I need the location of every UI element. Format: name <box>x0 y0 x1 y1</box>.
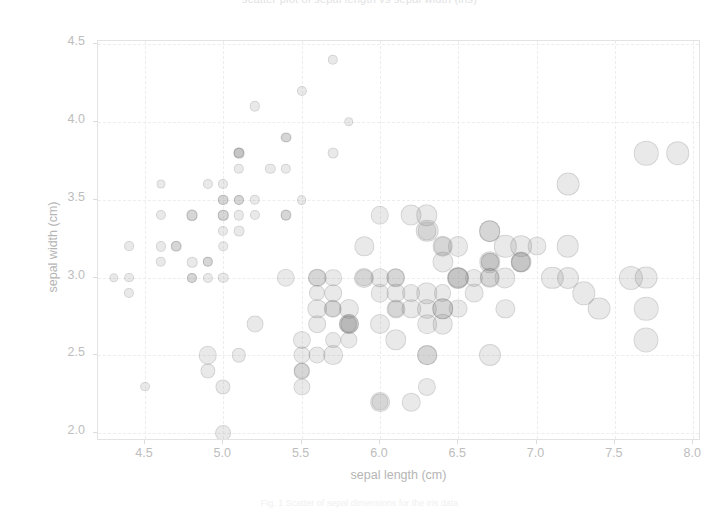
x-tick-label: 8.0 <box>662 446 719 460</box>
data-point <box>666 141 690 165</box>
gridline-horizontal <box>98 122 699 123</box>
data-point <box>324 284 342 302</box>
data-point <box>171 241 182 252</box>
data-point <box>401 205 422 226</box>
data-point <box>325 332 341 348</box>
data-point <box>309 285 325 301</box>
gridline-vertical <box>223 41 224 439</box>
x-axis-label: sepal length (cm) <box>97 468 700 482</box>
data-point <box>387 300 404 317</box>
data-point <box>202 257 212 267</box>
data-point <box>464 284 483 303</box>
data-point <box>340 331 357 348</box>
x-tick-mark <box>144 440 145 444</box>
plot-area <box>97 40 700 440</box>
data-point <box>432 251 453 272</box>
gridline-horizontal <box>98 433 699 434</box>
data-point <box>307 299 327 319</box>
data-point <box>281 163 291 173</box>
y-tick-mark <box>93 199 97 200</box>
data-point <box>280 210 291 221</box>
data-point <box>634 141 659 166</box>
data-point <box>417 221 436 240</box>
data-point <box>479 220 501 242</box>
gridline-vertical <box>615 41 616 439</box>
data-point <box>233 147 244 158</box>
data-point <box>187 210 198 221</box>
data-point <box>496 299 515 318</box>
data-point <box>281 133 291 143</box>
gridline-vertical <box>145 41 146 439</box>
chart-title: scatter plot of sepal length vs sepal wi… <box>0 0 719 5</box>
y-tick-label: 2.5 <box>27 345 85 359</box>
data-point <box>250 210 260 220</box>
data-point <box>308 315 326 333</box>
data-point <box>124 288 134 298</box>
data-point <box>572 281 595 304</box>
y-tick-mark <box>93 432 97 433</box>
data-point <box>434 284 452 302</box>
data-point <box>339 314 359 334</box>
data-point <box>557 235 580 258</box>
data-point <box>246 316 263 333</box>
x-tick-mark <box>301 440 302 444</box>
data-point <box>402 284 420 302</box>
data-point <box>432 314 453 335</box>
gridline-vertical <box>380 41 381 439</box>
data-point <box>432 236 453 257</box>
data-point <box>386 284 405 303</box>
y-tick-label: 4.5 <box>27 34 85 48</box>
x-tick-mark <box>536 440 537 444</box>
data-point <box>265 163 275 173</box>
data-point <box>588 297 611 320</box>
data-point <box>634 327 659 352</box>
data-point <box>340 316 357 333</box>
data-point <box>234 148 245 159</box>
x-tick-label: 6.0 <box>349 446 409 460</box>
x-tick-mark <box>614 440 615 444</box>
y-tick-mark <box>93 121 97 122</box>
scatter-plot-figure: scatter plot of sepal length vs sepal wi… <box>0 0 719 520</box>
x-tick-mark <box>379 440 380 444</box>
data-point <box>480 253 498 271</box>
x-tick-label: 4.5 <box>114 446 174 460</box>
gridline-horizontal <box>98 44 699 45</box>
data-point <box>156 180 165 189</box>
data-point <box>339 314 359 334</box>
data-point <box>327 148 338 159</box>
data-point <box>186 210 197 221</box>
data-point <box>155 257 165 267</box>
x-tick-label: 7.0 <box>506 446 566 460</box>
data-point <box>416 220 439 243</box>
data-point <box>249 101 259 111</box>
gridline-vertical <box>302 41 303 439</box>
gridline-vertical <box>693 41 694 439</box>
data-point <box>156 241 166 251</box>
gridline-horizontal <box>98 355 699 356</box>
data-point <box>280 132 291 143</box>
data-point <box>386 299 405 318</box>
data-point <box>200 363 215 378</box>
data-point <box>340 316 357 333</box>
data-point <box>634 296 659 321</box>
gridline-horizontal <box>98 278 699 279</box>
data-point <box>510 236 532 258</box>
data-point <box>511 252 531 272</box>
gridline-vertical <box>537 41 538 439</box>
data-point <box>418 377 436 395</box>
data-point <box>171 242 181 252</box>
x-tick-label: 7.5 <box>584 446 644 460</box>
data-point <box>417 314 437 334</box>
x-tick-mark <box>457 440 458 444</box>
data-point <box>432 298 454 320</box>
data-point <box>156 210 166 220</box>
data-point <box>328 54 338 64</box>
data-point <box>355 237 374 256</box>
data-point <box>234 163 244 173</box>
data-point <box>417 299 437 319</box>
gridline-vertical <box>458 41 459 439</box>
data-point <box>416 205 438 227</box>
figure-caption: Fig. 1 Scatter of sepal dimensions for t… <box>0 498 719 508</box>
data-point <box>339 299 359 319</box>
data-point <box>234 225 245 236</box>
